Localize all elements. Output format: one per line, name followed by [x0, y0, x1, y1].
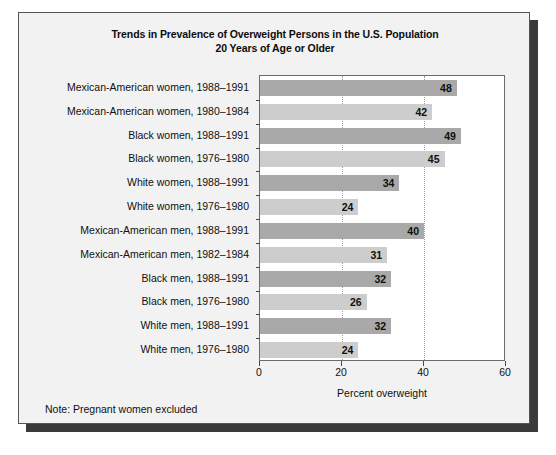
category-label: Mexican-American men, 1982–1984 [80, 246, 249, 262]
bar-row: 32 [260, 271, 504, 287]
bar-series: 484249453424403132263224 [260, 76, 504, 360]
bar-value-label: 48 [260, 81, 452, 95]
bar-value-label: 49 [260, 129, 456, 143]
y-axis-tick [256, 171, 260, 172]
chart-note: Note: Pregnant women excluded [45, 403, 197, 415]
bar-row: 49 [260, 128, 504, 144]
category-label: Black men, 1988–1991 [142, 270, 249, 286]
x-axis-tick-label: 20 [321, 366, 361, 378]
y-axis-tick [256, 219, 260, 220]
y-axis-tick [256, 148, 260, 149]
bar-row: 31 [260, 247, 504, 263]
chart-card: Trends in Prevalence of Overweight Perso… [18, 12, 530, 424]
x-axis-tick-label: 40 [403, 366, 443, 378]
bar-value-label: 34 [260, 176, 394, 190]
bar-row: 24 [260, 199, 504, 215]
bar-value-label: 24 [260, 200, 353, 214]
bar-value-label: 31 [260, 248, 382, 262]
bar-value-label: 42 [260, 105, 427, 119]
x-axis-tick-labels: 0204060 [259, 366, 505, 382]
bar-row: 26 [260, 294, 504, 310]
y-axis-tick [256, 195, 260, 196]
category-label: Mexican-American men, 1988–1991 [80, 222, 249, 238]
chart-title: Trends in Prevalence of Overweight Perso… [19, 27, 531, 55]
bar-row: 48 [260, 80, 504, 96]
chart-page: Trends in Prevalence of Overweight Perso… [0, 0, 556, 455]
y-axis-tick [256, 338, 260, 339]
category-label: Mexican-American women, 1980–1984 [67, 103, 249, 119]
y-axis-tick [256, 243, 260, 244]
bar-value-label: 32 [260, 272, 386, 286]
y-axis-tick [256, 314, 260, 315]
x-axis-tick-label: 0 [239, 366, 279, 378]
category-label: White women, 1976–1980 [127, 198, 249, 214]
y-axis-tick [256, 124, 260, 125]
x-axis-tick-label: 60 [485, 366, 525, 378]
bar-value-label: 24 [260, 343, 353, 357]
y-axis-tick [256, 100, 260, 101]
bar-value-label: 26 [260, 295, 362, 309]
bar-value-label: 45 [260, 152, 440, 166]
category-label: Mexican-American women, 1988–1991 [67, 79, 249, 95]
chart-title-line-1: Trends in Prevalence of Overweight Perso… [111, 28, 438, 40]
category-label: White men, 1976–1980 [140, 341, 249, 357]
plot-area: 484249453424403132263224 [259, 75, 505, 361]
bar-row: 40 [260, 223, 504, 239]
bar-row: 34 [260, 175, 504, 191]
bar-row: 42 [260, 104, 504, 120]
y-axis-tick [256, 291, 260, 292]
category-label: Black women, 1988–1991 [128, 127, 249, 143]
bar-row: 24 [260, 342, 504, 358]
bar-value-label: 32 [260, 319, 386, 333]
x-axis-title: Percent overweight [259, 387, 505, 399]
category-axis-labels: Mexican-American women, 1988–1991Mexican… [41, 75, 255, 361]
category-label: Black men, 1976–1980 [142, 293, 249, 309]
y-axis-tick [256, 267, 260, 268]
chart-title-line-2: 20 Years of Age or Older [19, 41, 531, 55]
category-label: White women, 1988–1991 [127, 174, 249, 190]
category-label: Black women, 1976–1980 [128, 150, 249, 166]
bar-value-label: 40 [260, 224, 419, 238]
bar-row: 45 [260, 151, 504, 167]
bar-row: 32 [260, 318, 504, 334]
category-label: White men, 1988–1991 [140, 317, 249, 333]
